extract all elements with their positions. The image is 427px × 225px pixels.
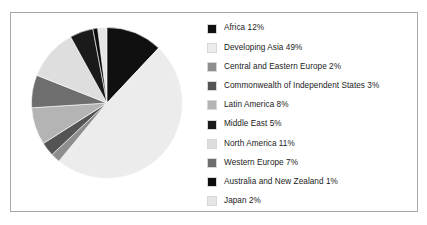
legend-color-swatch (207, 120, 217, 130)
legend-item-label: Australia and New Zealand 1% (224, 178, 338, 186)
legend-item[interactable]: Developing Asia 49% (207, 38, 413, 57)
legend-item-label: Middle East 5% (224, 120, 282, 128)
pie-chart-figure: Africa 12%Developing Asia 49%Central and… (11, 13, 417, 211)
legend-item[interactable]: Central and Eastern Europe 2% (207, 57, 413, 76)
legend-color-swatch (207, 24, 217, 34)
legend-item-label: Commonwealth of Independent States 3% (224, 82, 379, 90)
legend-color-swatch (207, 62, 217, 72)
legend-color-swatch (207, 177, 217, 187)
legend-item[interactable]: Middle East 5% (207, 115, 413, 134)
chart-legend: Africa 12%Developing Asia 49%Central and… (207, 19, 413, 211)
legend-item-label: Developing Asia 49% (224, 44, 302, 52)
legend-item[interactable]: Japan 2% (207, 192, 413, 211)
legend-color-swatch (207, 81, 217, 91)
legend-color-swatch (207, 196, 217, 206)
legend-color-swatch (207, 43, 217, 53)
legend-item-label: Japan 2% (224, 197, 261, 205)
pie-slice-group (32, 28, 183, 179)
legend-color-swatch (207, 158, 217, 168)
legend-item[interactable]: Commonwealth of Independent States 3% (207, 77, 413, 96)
pie-chart (31, 27, 183, 179)
legend-item-label: Western Europe 7% (224, 159, 298, 167)
pie-chart-svg (31, 27, 183, 179)
legend-color-swatch (207, 139, 217, 149)
legend-item[interactable]: Western Europe 7% (207, 153, 413, 172)
legend-item[interactable]: Latin America 8% (207, 96, 413, 115)
chart-frame: Africa 12%Developing Asia 49%Central and… (10, 12, 418, 212)
legend-item[interactable]: Africa 12% (207, 19, 413, 38)
legend-item-label: Central and Eastern Europe 2% (224, 63, 341, 71)
legend-color-swatch (207, 100, 217, 110)
legend-item[interactable]: Australia and New Zealand 1% (207, 173, 413, 192)
legend-item-label: Latin America 8% (224, 101, 289, 109)
cropped-caption-strip (0, 0, 427, 9)
legend-item-label: North America 11% (224, 140, 295, 148)
legend-item-label: Africa 12% (224, 24, 264, 32)
legend-item[interactable]: North America 11% (207, 134, 413, 153)
